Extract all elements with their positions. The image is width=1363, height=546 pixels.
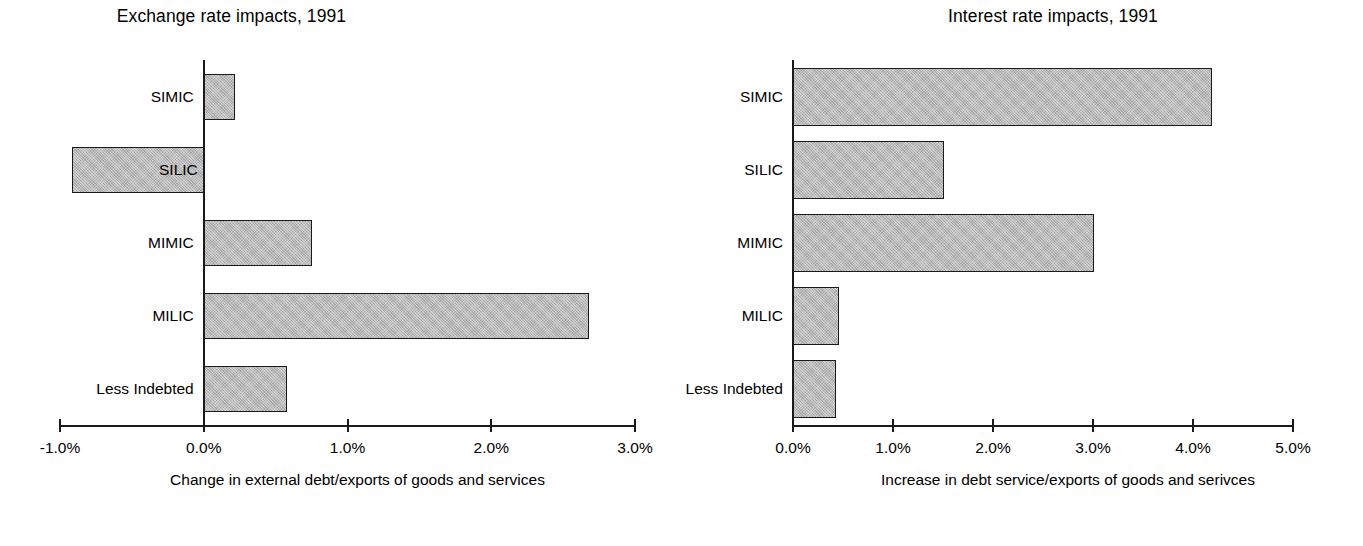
x-axis-line: [793, 425, 1293, 427]
x-tick-label: 2.0%: [975, 439, 1010, 457]
chart-title-right: Interest rate impacts, 1991: [713, 6, 1363, 27]
bar-milic: [793, 287, 839, 345]
category-label-silic: SILIC: [744, 161, 783, 179]
plot-area-left: SIMICSILICMIMICMILICLess Indebted-1.0%0.…: [60, 60, 635, 455]
category-label-simic: SIMIC: [151, 88, 194, 106]
category-label-mimic: MIMIC: [148, 234, 194, 252]
x-tick-label: 3.0%: [617, 439, 652, 457]
x-axis-caption: Change in external debt/exports of goods…: [170, 471, 545, 489]
x-tick: [992, 419, 994, 432]
x-tick: [892, 419, 894, 432]
x-tick-label: 2.0%: [474, 439, 509, 457]
x-tick-label: 5.0%: [1275, 439, 1310, 457]
bar-silic: [793, 141, 944, 199]
chart-panel-interest-rate: Interest rate impacts, 1991 SIMICSILICMI…: [683, 0, 1363, 546]
bar-simic: [793, 68, 1212, 126]
x-tick: [1192, 419, 1194, 432]
figure-two-bar-charts: Exchange rate impacts, 1991 SIMICSILICMI…: [0, 0, 1363, 546]
x-tick-label: 0.0%: [775, 439, 810, 457]
x-tick-label: 1.0%: [875, 439, 910, 457]
x-tick: [1292, 419, 1294, 432]
x-tick: [203, 419, 205, 432]
bar-mimic: [793, 214, 1094, 272]
chart-panel-exchange-rate: Exchange rate impacts, 1991 SIMICSILICMI…: [0, 0, 683, 546]
x-axis-caption: Increase in debt service/exports of good…: [881, 471, 1255, 489]
category-label-milic: MILIC: [742, 307, 783, 325]
category-label-less-indebted: Less Indebted: [96, 380, 193, 398]
x-tick: [792, 419, 794, 432]
bar-mimic: [204, 220, 312, 266]
x-tick: [347, 419, 349, 432]
x-tick-label: 3.0%: [1075, 439, 1110, 457]
bar-less-indebted: [793, 360, 836, 418]
plot-area-right: SIMICSILICMIMICMILICLess Indebted0.0%1.0…: [793, 60, 1293, 455]
x-tick: [634, 419, 636, 432]
category-label-simic: SIMIC: [740, 88, 783, 106]
category-label-mimic: MIMIC: [737, 234, 783, 252]
category-label-less-indebted: Less Indebted: [686, 380, 783, 398]
x-tick-label: 4.0%: [1175, 439, 1210, 457]
x-tick-label: 0.0%: [186, 439, 221, 457]
bar-less-indebted: [204, 366, 287, 412]
x-tick: [490, 419, 492, 432]
chart-title-left: Exchange rate impacts, 1991: [0, 6, 573, 27]
bar-simic: [204, 74, 236, 120]
x-tick: [1092, 419, 1094, 432]
x-tick-label: 1.0%: [330, 439, 365, 457]
category-label-milic: MILIC: [152, 307, 193, 325]
x-tick: [59, 419, 61, 432]
bar-milic: [204, 293, 589, 339]
x-tick-label: -1.0%: [40, 439, 81, 457]
category-label-silic: SILIC: [159, 161, 198, 179]
